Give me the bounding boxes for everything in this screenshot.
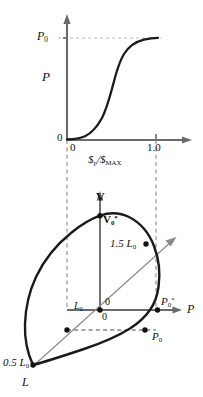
label-1p5-l0: 1.5 L0: [110, 238, 136, 251]
upper-y-axis-arrowhead: [63, 14, 70, 24]
upper-xtick-one-label: 1.0: [147, 142, 161, 153]
teardrop-curve: [25, 213, 159, 365]
point-v0-star: [97, 213, 102, 218]
upper-y-top-label: P0: [37, 30, 48, 44]
label-origin-lower-zero: 0: [102, 312, 107, 322]
sigmoid-curve: [67, 38, 158, 140]
label-l0-origin: L0: [74, 301, 83, 312]
label-v0-star: V0*: [103, 214, 118, 227]
upper-xtick-zero-label: 0: [70, 142, 76, 153]
point-diagonal-lower: [64, 327, 69, 332]
upper-x-axis-title: $p/$MAX: [88, 154, 121, 167]
label-origin-upper-zero: 0: [105, 297, 110, 307]
label-p0-star: P0*: [161, 296, 175, 309]
upper-plot-group: [58, 14, 192, 144]
label-p0: P0: [152, 331, 162, 344]
upper-y-axis-title: P: [42, 70, 50, 83]
lower-v-axis-title: V: [96, 191, 105, 203]
upper-x-axis-arrowhead: [182, 136, 192, 143]
label-0p5-l0: 0.5 L0: [3, 357, 29, 370]
l-diagonal-ray: [32, 241, 172, 367]
label-l-axis: L: [22, 376, 29, 388]
point-0p5-l0: [30, 362, 35, 367]
point-p0: [142, 327, 147, 332]
lower-p-axis-title: P: [187, 303, 194, 315]
point-p0-star: [155, 307, 160, 312]
point-1p5-l0: [143, 241, 148, 246]
upper-origin-zero-label: 0: [57, 132, 63, 143]
